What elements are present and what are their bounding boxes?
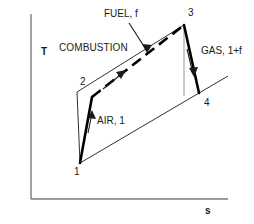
diagram-canvas <box>0 0 254 224</box>
y-axis-label: T <box>41 47 47 57</box>
state-label-2: 2 <box>80 77 86 87</box>
process-expansion-3-4 <box>184 25 199 93</box>
process-compression-1-2 <box>80 97 92 163</box>
isobar-high-pressure-line <box>77 25 184 92</box>
fuel-arrow-icon <box>129 23 152 53</box>
x-axis-label: s <box>205 206 211 216</box>
constant-pressure-line-state2 <box>77 92 80 163</box>
gas-label: GAS, 1+f <box>201 46 242 56</box>
air-label: AIR, 1 <box>97 116 125 126</box>
combustion-label: COMBUSTION <box>59 43 128 53</box>
state-label-4: 4 <box>204 98 210 108</box>
state-label-1: 1 <box>74 167 80 177</box>
fuel-label: FUEL, f <box>104 9 138 19</box>
combustion-direction-arrow-icon <box>103 70 126 89</box>
ts-diagram-figure: T s 1 2 3 4 FUEL, f COMBUSTION GAS, 1+f … <box>0 0 254 224</box>
state-label-3: 3 <box>188 8 194 18</box>
